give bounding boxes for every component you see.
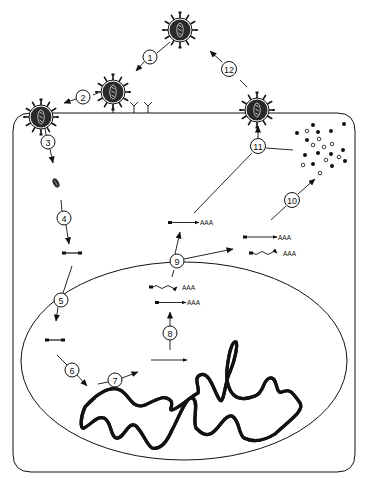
cytoplasmic-mrna-upper: AAA [168,219,214,226]
svg-text:AAA: AAA [200,219,214,226]
svg-text:8: 8 [167,329,172,339]
step-6-marker: 6 [65,363,79,377]
step-5-marker: 5 [54,293,68,307]
step-7-marker: 7 [108,373,122,387]
svg-text:5: 5 [58,296,63,306]
viral-dna-cytoplasm [62,252,82,255]
budding-virion [240,92,275,129]
step-2-marker: 2 [76,90,90,104]
viral-proteins [295,122,347,175]
svg-text:9: 9 [174,257,179,267]
svg-text:AAA: AAA [187,299,201,306]
svg-text:12: 12 [224,65,234,75]
capsid-core [51,177,61,188]
step-11-marker: 11 [251,139,266,154]
svg-text:AAA: AAA [182,284,196,291]
svg-text:2: 2 [80,93,85,103]
viral-dna-nucleus [45,339,65,342]
svg-text:6: 6 [69,366,74,376]
svg-text:11: 11 [253,142,262,152]
step-1-marker: 1 [143,50,157,64]
svg-text:7: 7 [112,376,117,386]
svg-text:10: 10 [287,196,297,206]
step-10-marker: 10 [285,193,300,208]
svg-text:1: 1 [147,53,152,63]
step-4-marker: 4 [57,211,71,225]
nucleus-envelope [21,262,347,460]
step-12-marker: 12 [222,62,237,77]
svg-text:4: 4 [61,214,66,224]
svg-text:AAA: AAA [278,234,292,241]
svg-text:3: 3 [45,138,50,148]
step-3-marker: 3 [41,135,55,149]
step-9-marker: 9 [170,254,184,268]
cytoplasmic-mrna-right-1: AAA [243,234,292,241]
step-8-marker: 8 [163,326,177,340]
nuclear-spliced-mrna: AAA [149,284,196,291]
host-chromosome-dna [81,342,301,448]
cytoplasmic-mrna-right-2: AAA [249,250,297,257]
attached-virion [96,74,131,111]
nuclear-unspliced-mrna: AAA [155,299,201,306]
svg-text:AAA: AAA [283,250,297,257]
entering-virion [24,99,59,136]
viral-life-cycle-diagram: AAA AAA AAA AAA AAA [0,0,367,486]
free-virion [163,12,198,49]
diagram-canvas: AAA AAA AAA AAA AAA [0,0,367,486]
